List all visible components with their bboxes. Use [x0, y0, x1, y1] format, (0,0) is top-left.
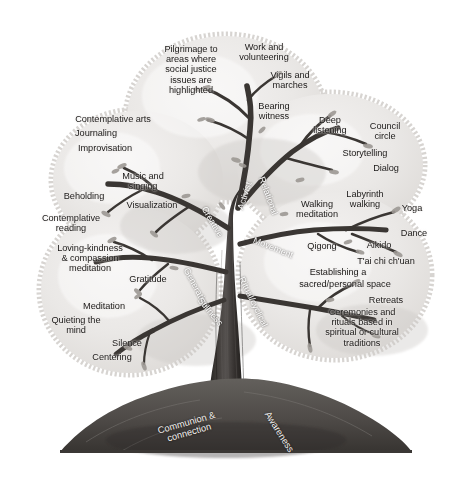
- practice-label[interactable]: Silence: [112, 338, 142, 348]
- practice-label[interactable]: Storytelling: [343, 148, 388, 158]
- practice-label[interactable]: Vigils and marches: [270, 70, 309, 90]
- practice-label[interactable]: Contemplative arts: [75, 114, 151, 124]
- practice-label[interactable]: Walking meditation: [296, 199, 338, 219]
- practice-label[interactable]: Journaling: [75, 128, 117, 138]
- practice-label[interactable]: Work and volunteering: [239, 42, 288, 62]
- practice-label[interactable]: Dance: [401, 228, 427, 238]
- practice-label[interactable]: Gratitude: [129, 274, 166, 284]
- ground: [60, 379, 412, 459]
- practice-label[interactable]: Ceremonies and rituals based in spiritua…: [325, 307, 399, 348]
- practice-label[interactable]: sacred/personal space: [299, 279, 390, 289]
- practice-label[interactable]: Retreats: [369, 295, 403, 305]
- practice-label[interactable]: Contemplative reading: [42, 213, 100, 233]
- practice-label[interactable]: Visualization: [127, 200, 178, 210]
- practice-label[interactable]: Yoga: [402, 203, 422, 213]
- practice-label[interactable]: Qigong: [307, 241, 336, 251]
- figure-canvas: Pilgrimage to areas where social justice…: [0, 0, 452, 479]
- practice-label[interactable]: Bearing witness: [258, 101, 289, 121]
- practice-label[interactable]: Aikido: [367, 240, 392, 250]
- practice-label[interactable]: Labyrinth walking: [346, 189, 383, 209]
- practice-label[interactable]: Deep listening: [313, 115, 346, 135]
- practice-label[interactable]: Beholding: [64, 191, 104, 201]
- practice-label[interactable]: Improvisation: [78, 143, 132, 153]
- practice-label[interactable]: Music and singing: [122, 171, 163, 191]
- practice-label[interactable]: Pilgrimage to areas where social justice…: [165, 44, 218, 95]
- practice-label[interactable]: Dialog: [373, 163, 399, 173]
- practice-label[interactable]: Centering: [92, 352, 131, 362]
- practice-label[interactable]: Council circle: [370, 121, 400, 141]
- practice-label[interactable]: T'ai chi ch'uan: [357, 256, 414, 266]
- practice-label[interactable]: Establishing a: [310, 267, 367, 277]
- practice-label[interactable]: Meditation: [83, 301, 125, 311]
- practice-label[interactable]: Quieting the mind: [52, 315, 101, 335]
- practice-label[interactable]: Loving-kindness & compassion meditation: [57, 243, 123, 274]
